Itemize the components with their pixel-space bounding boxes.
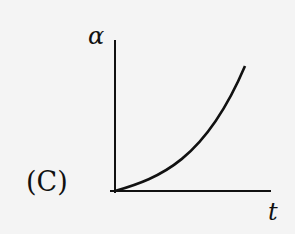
y-axis-label: α xyxy=(88,22,104,50)
option-label: (C) xyxy=(26,166,68,197)
x-axis-label: t xyxy=(268,198,278,226)
curve xyxy=(115,66,245,191)
graph xyxy=(0,0,295,234)
